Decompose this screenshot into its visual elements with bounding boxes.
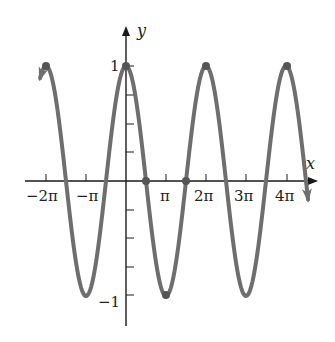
x-label-negpi: −π — [76, 187, 99, 205]
x-label-4pi: 4π — [275, 187, 295, 205]
x-label-neg2pi: −2π — [26, 187, 58, 205]
point-peak-2pi — [202, 62, 210, 70]
y-label-1: 1 — [110, 57, 120, 75]
point-peak-neg2pi — [42, 62, 50, 70]
y-axis-label: y — [136, 21, 147, 40]
point-trough-pi — [162, 291, 170, 299]
x-label-pi: π — [160, 187, 170, 205]
x-label-3pi: 3π — [234, 187, 254, 205]
x-axis-label: x — [306, 154, 315, 173]
point-peak-4pi — [283, 62, 291, 70]
y-label-neg1: −1 — [98, 293, 120, 311]
x-label-2pi: 2π — [194, 187, 214, 205]
point-peak-0 — [122, 62, 130, 70]
point-zero-3pi-half — [182, 177, 190, 185]
cosine-graph: y x 1 −1 −2π −π π 2π 3π 4π — [0, 0, 335, 342]
x-ticks — [46, 174, 287, 181]
point-zero-pi-half — [142, 177, 150, 185]
